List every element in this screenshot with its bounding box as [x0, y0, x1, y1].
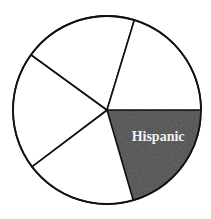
pie-chart: Hispanic	[0, 0, 211, 219]
pie-labels: Hispanic	[132, 129, 185, 144]
slice-label-hispanic: Hispanic	[132, 129, 185, 144]
pie-slices	[13, 16, 201, 204]
